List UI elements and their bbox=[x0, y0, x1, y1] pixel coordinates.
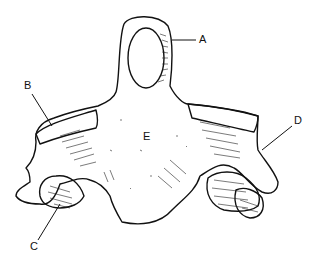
vertebra-drawing bbox=[0, 0, 316, 262]
label-c: C bbox=[30, 241, 38, 252]
label-a: A bbox=[199, 34, 206, 45]
diagram-canvas: A B C D E bbox=[0, 0, 316, 262]
leader-d bbox=[262, 126, 292, 150]
label-b: B bbox=[24, 80, 31, 91]
label-d: D bbox=[294, 115, 302, 126]
label-e: E bbox=[143, 131, 150, 142]
leader-c bbox=[38, 204, 60, 240]
leader-b bbox=[32, 94, 52, 126]
